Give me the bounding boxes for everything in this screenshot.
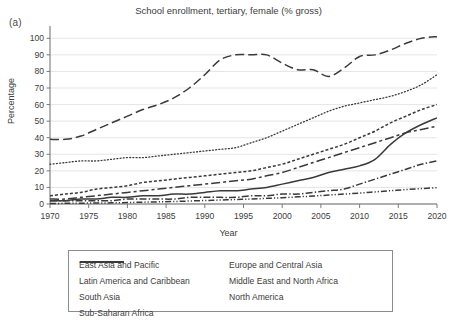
series-line-latin-america-and-caribbean — [50, 105, 437, 196]
legend-item-north-america[interactable]: North America — [229, 292, 389, 302]
legend-item-latin-america-and-caribbean[interactable]: Latin America and Caribbean — [79, 276, 229, 286]
svg-text:2015: 2015 — [389, 211, 408, 221]
series-lines — [50, 37, 437, 204]
svg-text:90: 90 — [34, 50, 44, 60]
svg-text:1975: 1975 — [79, 211, 98, 221]
legend-item-south-asia[interactable]: South Asia — [79, 292, 229, 302]
svg-text:60: 60 — [34, 100, 44, 110]
svg-text:2020: 2020 — [427, 211, 446, 221]
svg-text:1970: 1970 — [40, 211, 59, 221]
x-axis: 1970197519801985199019952000200520102015… — [40, 204, 446, 221]
legend-item-europe-and-central-asia[interactable]: Europe and Central Asia — [229, 260, 389, 270]
svg-text:2005: 2005 — [311, 211, 330, 221]
svg-text:30: 30 — [34, 149, 44, 159]
svg-text:1985: 1985 — [157, 211, 176, 221]
legend-item-label: South Asia — [79, 292, 120, 302]
legend-item-middle-east-and-north-africa[interactable]: Middle East and North Africa — [229, 276, 389, 286]
svg-text:40: 40 — [34, 133, 44, 143]
svg-text:70: 70 — [34, 83, 44, 93]
svg-text:2000: 2000 — [273, 211, 292, 221]
legend-item-label: Sub-Saharan Africa — [79, 308, 154, 318]
legend-item-label: Europe and Central Asia — [229, 260, 322, 270]
legend-item-sub-saharan-africa[interactable]: Sub-Saharan Africa — [79, 308, 229, 318]
legend-item-label: Middle East and North Africa — [229, 276, 338, 286]
svg-text:2010: 2010 — [350, 211, 369, 221]
legend-line-swatch — [79, 257, 125, 267]
svg-text:20: 20 — [34, 166, 44, 176]
figure-panel: (a) School enrollment, tertiary, female … — [0, 0, 457, 327]
legend: East Asia and PacificEurope and Central … — [68, 250, 393, 312]
series-line-middle-east-and-north-africa — [50, 126, 437, 199]
svg-text:80: 80 — [34, 66, 44, 76]
grid-lines — [50, 38, 437, 204]
svg-text:0: 0 — [39, 199, 44, 209]
y-axis: 0102030405060708090100 — [30, 26, 50, 209]
svg-text:1980: 1980 — [118, 211, 137, 221]
svg-text:1995: 1995 — [234, 211, 253, 221]
svg-text:100: 100 — [30, 33, 45, 43]
legend-items: East Asia and PacificEurope and Central … — [79, 257, 389, 321]
legend-item-label: North America — [229, 292, 283, 302]
svg-text:1990: 1990 — [195, 211, 214, 221]
svg-text:50: 50 — [34, 116, 44, 126]
legend-item-label: Latin America and Caribbean — [79, 276, 190, 286]
svg-text:10: 10 — [34, 182, 44, 192]
